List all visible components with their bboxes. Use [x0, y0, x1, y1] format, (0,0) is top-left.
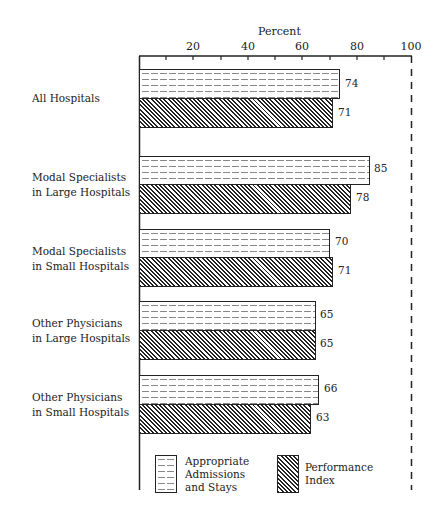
value-label: 85: [374, 162, 387, 174]
value-label: 70: [335, 235, 348, 247]
bar-performance-index: [139, 404, 311, 434]
category-label: Modal Specialistsin Large Hospitals: [32, 170, 130, 200]
category-label: Other Physiciansin Large Hospitals: [32, 316, 130, 346]
value-label: 71: [338, 106, 351, 118]
legend-swatch-dashed: [155, 455, 177, 493]
legend-label-performance: PerformanceIndex: [305, 461, 373, 487]
value-label: 74: [345, 77, 358, 89]
bar-appropriate-admissions: [139, 156, 370, 185]
legend-swatch-hatched: [277, 455, 299, 493]
value-label: 71: [338, 264, 351, 276]
bar-appropriate-admissions: [139, 69, 340, 99]
value-label: 65: [320, 308, 333, 320]
bar-appropriate-admissions: [139, 301, 316, 331]
value-label: 63: [316, 411, 329, 423]
bar-appropriate-admissions: [139, 229, 330, 258]
bar-appropriate-admissions: [139, 375, 319, 405]
bar-performance-index: [139, 330, 316, 360]
category-label: Other Physiciansin Small Hospitals: [32, 390, 129, 420]
legend-label-appropriate: AppropriateAdmissionsand Stays: [185, 455, 249, 494]
category-label: All Hospitals: [32, 91, 100, 106]
value-label: 65: [320, 337, 333, 349]
bar-performance-index: [139, 257, 333, 287]
value-label: 78: [356, 191, 369, 203]
bar-performance-index: [139, 98, 333, 128]
category-label: Modal Specialistsin Small Hospitals: [32, 244, 129, 274]
bar-performance-index: [139, 184, 351, 214]
value-label: 66: [324, 382, 337, 394]
